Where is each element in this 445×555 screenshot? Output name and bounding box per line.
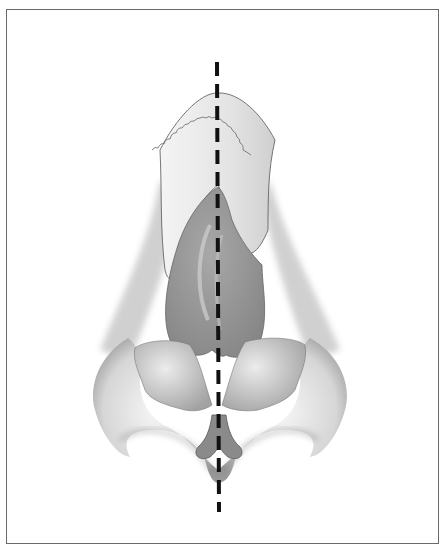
- midline-dashed: [217, 62, 219, 512]
- nose-illustration: [0, 0, 445, 555]
